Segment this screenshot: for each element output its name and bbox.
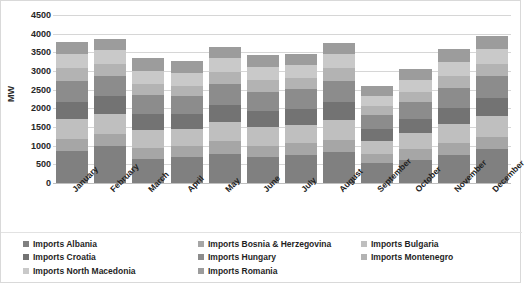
bar-segment[interactable] xyxy=(209,58,241,72)
bar-column[interactable] xyxy=(361,15,393,183)
legend-item[interactable]: Imports North Macedonia xyxy=(23,264,135,278)
bar-segment[interactable] xyxy=(94,96,126,113)
bar-segment[interactable] xyxy=(56,119,88,139)
bar-segment[interactable] xyxy=(132,71,164,84)
bar-segment[interactable] xyxy=(171,73,203,85)
bar-segment[interactable] xyxy=(361,86,393,96)
bar-segment[interactable] xyxy=(323,102,355,120)
bar-segment[interactable] xyxy=(285,143,317,154)
bar-segment[interactable] xyxy=(171,146,203,157)
legend-item[interactable]: Imports Hungary xyxy=(198,251,331,265)
bar-segment[interactable] xyxy=(285,78,317,89)
bar-segment[interactable] xyxy=(323,120,355,140)
bar-segment[interactable] xyxy=(94,114,126,135)
bar-segment[interactable] xyxy=(132,58,164,71)
bar-column[interactable] xyxy=(94,15,126,183)
bar-segment[interactable] xyxy=(56,42,88,54)
bar-segment[interactable] xyxy=(361,129,393,141)
bar-segment[interactable] xyxy=(94,134,126,146)
bar-segment[interactable] xyxy=(361,154,393,163)
bar-segment[interactable] xyxy=(247,111,279,127)
bar-segment[interactable] xyxy=(56,81,88,102)
bar-segment[interactable] xyxy=(247,92,279,111)
bar-segment[interactable] xyxy=(247,127,279,145)
bar-column[interactable] xyxy=(132,15,164,183)
bar-column[interactable] xyxy=(285,15,317,183)
legend-item[interactable]: Imports Bosnia & Herzegovina xyxy=(198,237,331,251)
bar-segment[interactable] xyxy=(399,92,431,102)
bar-segment[interactable] xyxy=(476,98,508,116)
legend-item[interactable]: Imports Romania xyxy=(198,264,331,278)
bar-segment[interactable] xyxy=(438,49,470,62)
bar-segment[interactable] xyxy=(323,140,355,152)
bar-segment[interactable] xyxy=(247,67,279,80)
bar-segment[interactable] xyxy=(476,116,508,137)
bar-segment[interactable] xyxy=(132,84,164,95)
bar-segment[interactable] xyxy=(438,124,470,143)
bar-column[interactable] xyxy=(247,15,279,183)
bar-column[interactable] xyxy=(209,15,241,183)
bar-segment[interactable] xyxy=(56,102,88,120)
bar-segment[interactable] xyxy=(209,84,241,105)
bar-segment[interactable] xyxy=(285,125,317,144)
bar-segment[interactable] xyxy=(94,50,126,64)
bar-segment[interactable] xyxy=(399,102,431,119)
bar-segment[interactable] xyxy=(399,133,431,149)
bar-segment[interactable] xyxy=(209,72,241,84)
bar-segment[interactable] xyxy=(247,80,279,92)
bar-segment[interactable] xyxy=(94,76,126,96)
bar-segment[interactable] xyxy=(285,65,317,78)
bar-segment[interactable] xyxy=(56,139,88,151)
bar-segment[interactable] xyxy=(247,55,279,67)
bar-segment[interactable] xyxy=(361,106,393,115)
bar-segment[interactable] xyxy=(323,43,355,54)
bar-segment[interactable] xyxy=(438,88,470,108)
bar-segment[interactable] xyxy=(209,47,241,58)
bar-segment[interactable] xyxy=(56,68,88,80)
bar-column[interactable] xyxy=(56,15,88,183)
bar-segment[interactable] xyxy=(323,68,355,80)
legend-item[interactable]: Imports Croatia xyxy=(23,251,135,265)
bar-column[interactable] xyxy=(171,15,203,183)
bar-segment[interactable] xyxy=(399,119,431,133)
bar-segment[interactable] xyxy=(476,36,508,48)
bar-segment[interactable] xyxy=(361,141,393,154)
bar-segment[interactable] xyxy=(438,108,470,124)
bar-segment[interactable] xyxy=(438,62,470,76)
bar-segment[interactable] xyxy=(171,86,203,97)
bar-segment[interactable] xyxy=(323,81,355,102)
bar-segment[interactable] xyxy=(361,115,393,129)
bar-segment[interactable] xyxy=(438,76,470,88)
bar-segment[interactable] xyxy=(476,64,508,77)
bar-segment[interactable] xyxy=(132,95,164,114)
bar-segment[interactable] xyxy=(476,137,508,149)
bar-segment[interactable] xyxy=(323,54,355,69)
bar-segment[interactable] xyxy=(94,64,126,76)
bar-segment[interactable] xyxy=(209,105,241,122)
bar-segment[interactable] xyxy=(399,80,431,92)
bar-segment[interactable] xyxy=(209,122,241,141)
bar-segment[interactable] xyxy=(285,109,317,125)
bar-segment[interactable] xyxy=(171,61,203,73)
bar-segment[interactable] xyxy=(171,96,203,114)
bar-column[interactable] xyxy=(323,15,355,183)
bar-segment[interactable] xyxy=(247,146,279,157)
bar-segment[interactable] xyxy=(171,129,203,146)
bar-segment[interactable] xyxy=(94,39,126,50)
bar-segment[interactable] xyxy=(438,143,470,155)
bar-segment[interactable] xyxy=(132,114,164,130)
bar-segment[interactable] xyxy=(476,49,508,64)
bar-segment[interactable] xyxy=(56,54,88,69)
bar-segment[interactable] xyxy=(399,69,431,80)
bar-segment[interactable] xyxy=(476,76,508,98)
bar-segment[interactable] xyxy=(171,114,203,129)
bar-segment[interactable] xyxy=(361,96,393,106)
bar-segment[interactable] xyxy=(285,54,317,65)
legend-item[interactable]: Imports Albania xyxy=(23,237,135,251)
bar-segment[interactable] xyxy=(132,148,164,159)
bar-segment[interactable] xyxy=(209,141,241,153)
bar-segment[interactable] xyxy=(132,130,164,148)
legend-item[interactable]: Imports Bulgaria xyxy=(361,237,453,251)
legend-item[interactable]: Imports Montenegro xyxy=(361,251,453,265)
bar-column[interactable] xyxy=(438,15,470,183)
